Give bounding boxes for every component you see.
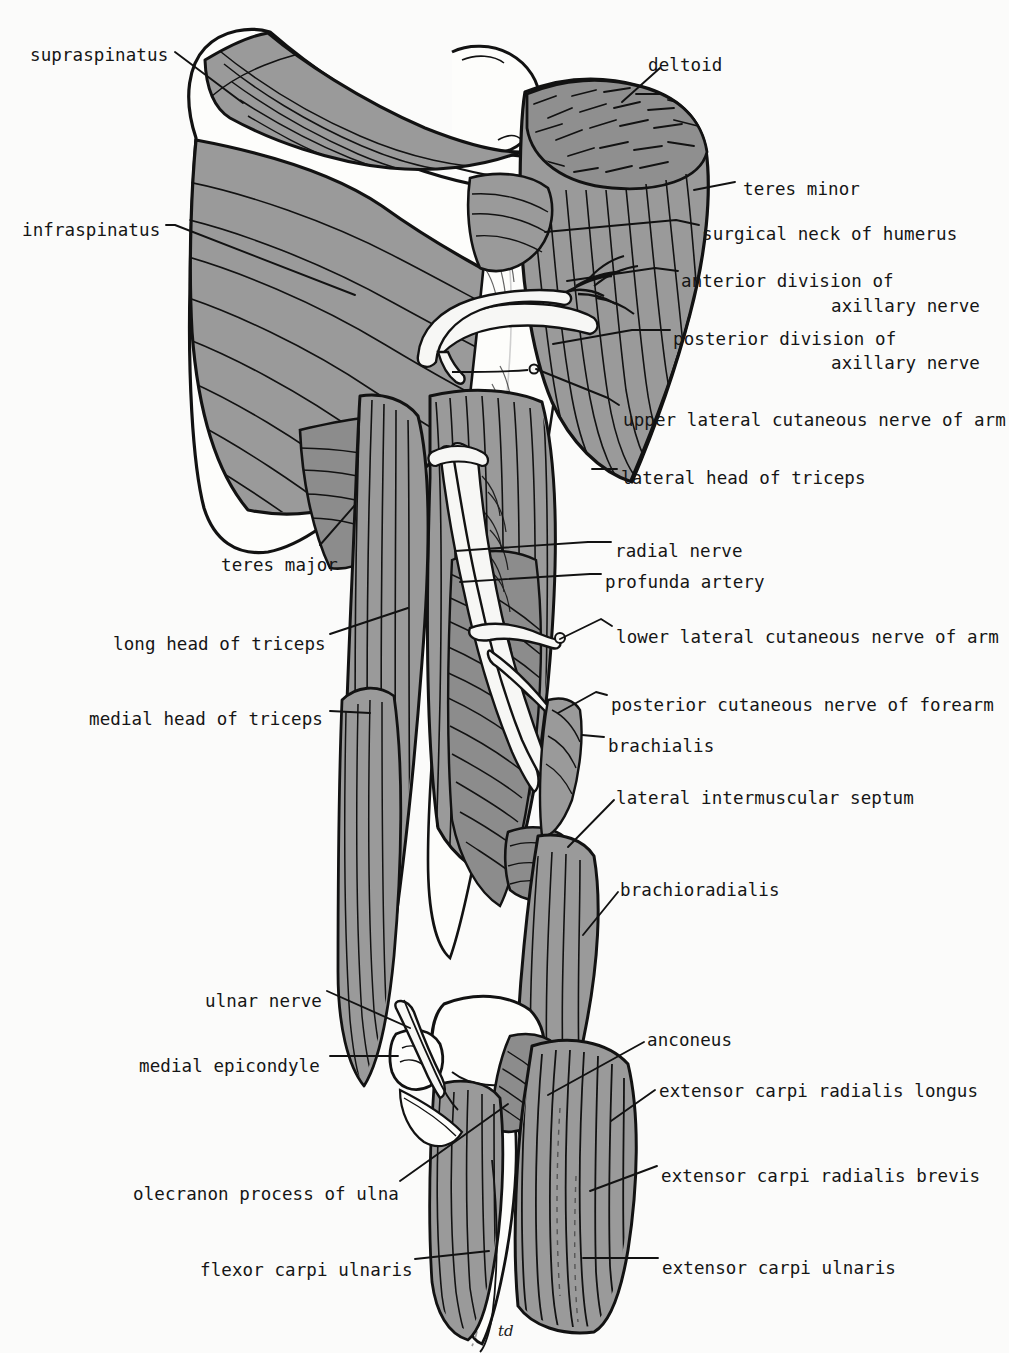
leader-flexor-carpi-ulnaris [415,1251,489,1259]
leader-anterior-division-of [567,268,678,281]
leader-teres-major [320,505,355,545]
label-axillary-nerve-2: axillary nerve [831,355,980,373]
leader-lower-lateral-cutaneous-arm [560,619,612,639]
label-lateral-head-of-triceps: lateral head of triceps [621,470,866,488]
label-flexor-carpi-ulnaris: flexor carpi ulnaris [200,1262,413,1280]
label-posterior-cutaneous-forearm: posterior cutaneous nerve of forearm [611,697,994,715]
anatomical-illustration: supraspinatusinfraspinatusteres majorlon… [0,0,1009,1353]
leader-olecranon-process [400,1104,508,1181]
leader-extensor-carpi-radialis-longus [611,1090,655,1121]
label-teres-minor: teres minor [743,181,860,199]
leader-long-head-of-triceps [330,608,408,634]
leader-medial-head-of-triceps [330,711,370,713]
label-brachioradialis: brachioradialis [620,882,780,900]
label-anconeus: anconeus [647,1032,732,1050]
label-ulnar-nerve: ulnar nerve [205,993,322,1011]
label-medial-epicondyle: medial epicondyle [139,1058,320,1076]
label-lateral-intermuscular-septum: lateral intermuscular septum [616,790,914,808]
leader-surgical-neck-of-humerus [545,220,699,232]
label-teres-major: teres major [221,557,338,575]
leader-profunda-artery [460,574,601,582]
label-upper-lateral-cutaneous-arm: upper lateral cutaneous nerve of arm [623,412,1006,430]
label-extensor-carpi-radialis-longus: extensor carpi radialis longus [659,1083,978,1101]
label-extensor-carpi-ulnaris: extensor carpi ulnaris [662,1260,896,1278]
label-infraspinatus: infraspinatus [22,222,160,240]
label-surgical-neck-of-humerus: surgical neck of humerus [702,226,957,244]
leader-brachialis [582,735,604,737]
label-brachialis: brachialis [608,738,714,756]
leader-teres-minor [694,182,735,190]
label-profunda-artery: profunda artery [605,574,765,592]
leader-extensor-carpi-radialis-brevis [590,1166,657,1191]
label-lower-lateral-cutaneous-arm: lower lateral cutaneous nerve of arm [616,629,999,647]
leader-ulnar-nerve [327,991,410,1028]
label-extensor-carpi-radialis-brevis: extensor carpi radialis brevis [661,1168,980,1186]
artist-signature: td [498,1322,514,1340]
label-axillary-nerve-1: axillary nerve [831,298,980,316]
leader-lines [0,0,1009,1353]
label-anterior-division-of: anterior division of [681,273,894,291]
label-medial-head-of-triceps: medial head of triceps [89,711,323,729]
leader-anconeus [548,1042,644,1095]
label-deltoid: deltoid [648,57,722,75]
leader-supraspinatus [175,52,243,103]
label-long-head-of-triceps: long head of triceps [113,636,326,654]
label-posterior-division-of: posterior division of [673,331,896,349]
label-radial-nerve: radial nerve [615,543,743,561]
leader-radial-nerve [455,542,611,551]
leader-infraspinatus [166,225,355,295]
leader-brachioradialis [583,892,618,935]
leader-posterior-cutaneous-forearm [558,692,607,713]
label-olecranon-process: olecranon process of ulna [133,1186,399,1204]
leader-upper-lateral-cutaneous-arm [536,369,619,405]
leader-lateral-intermuscular-septum [568,800,614,847]
label-supraspinatus: supraspinatus [30,47,168,65]
leader-posterior-division-of [553,330,670,344]
